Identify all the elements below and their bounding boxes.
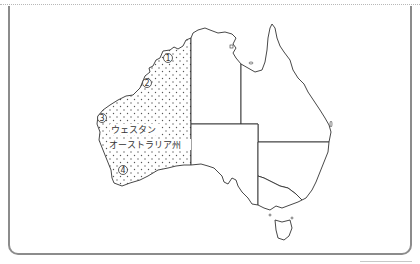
western-australia-region[interactable] xyxy=(97,38,191,186)
south-australia-region[interactable] xyxy=(191,124,258,205)
northeast-tas-island xyxy=(291,217,293,219)
marker-4[interactable]: 4 xyxy=(119,166,128,176)
northern-territory-region[interactable] xyxy=(191,28,241,124)
tasmania-region[interactable] xyxy=(275,220,292,240)
marker-3[interactable]: 3 xyxy=(98,114,107,124)
mornington-island xyxy=(249,62,253,64)
marker-2[interactable]: 2 xyxy=(143,79,152,89)
svg-text:4: 4 xyxy=(120,166,125,175)
marker-1[interactable]: 1 xyxy=(164,54,173,64)
bass-strait-island xyxy=(269,214,271,216)
svg-text:1: 1 xyxy=(165,54,170,63)
fraser-island xyxy=(330,121,332,127)
region-label-line2: オーストラリア州 xyxy=(109,140,181,150)
australia-map: 1 2 3 4 ウェスタン オーストラリア州 xyxy=(0,0,420,264)
svg-text:2: 2 xyxy=(144,79,149,88)
region-label-line1: ウェスタン xyxy=(111,125,156,135)
svg-text:3: 3 xyxy=(99,114,104,123)
